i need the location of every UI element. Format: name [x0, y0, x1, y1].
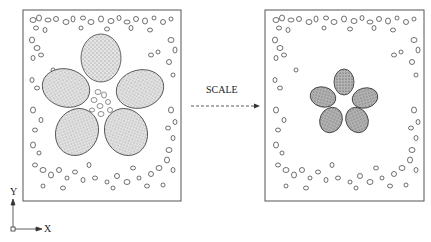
arrowhead-icon — [254, 104, 260, 109]
x-axis-label: X — [44, 223, 51, 234]
panel-before — [23, 10, 181, 201]
y-axis-label: Y — [10, 186, 17, 197]
axis-indicator — [11, 199, 42, 231]
panel-after — [265, 10, 424, 201]
scale-label: SCALE — [206, 84, 238, 95]
diagram-canvas — [0, 0, 431, 242]
